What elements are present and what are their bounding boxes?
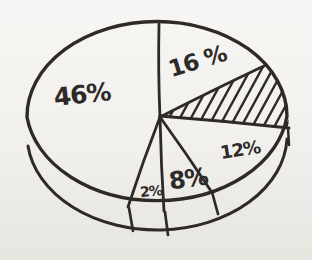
slice-line-46-16-boundary bbox=[159, 24, 160, 118]
slice-label-12: 12% bbox=[219, 136, 263, 163]
paper-photo-background: 46% 16 % 12% 8% 2% bbox=[0, 0, 312, 260]
rim-vertical-line-middle bbox=[165, 212, 168, 235]
slice-label-16: 16 % bbox=[165, 40, 230, 82]
pie-chart-sketch: 46% 16 % 12% 8% 2% bbox=[0, 0, 312, 260]
rim-vertical-line-right bbox=[212, 192, 218, 214]
pie-top-ellipse-outline bbox=[27, 22, 287, 201]
slice-label-8: 8% bbox=[167, 162, 210, 195]
slice-label-2: 2% bbox=[139, 182, 163, 200]
rim-vertical-line-far-right bbox=[288, 128, 289, 145]
slice-label-46: 46% bbox=[52, 77, 113, 112]
